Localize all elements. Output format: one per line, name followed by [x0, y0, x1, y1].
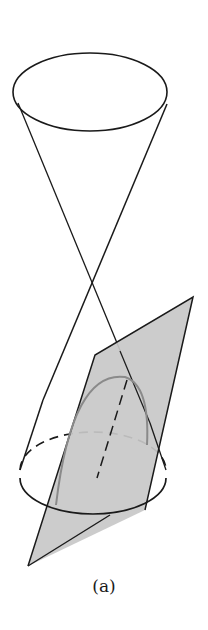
figure-caption: (a) [0, 576, 208, 596]
upper-rim-ellipse [13, 53, 167, 131]
generator-line-left-lower [20, 400, 43, 470]
conic-section-diagram [0, 0, 208, 630]
